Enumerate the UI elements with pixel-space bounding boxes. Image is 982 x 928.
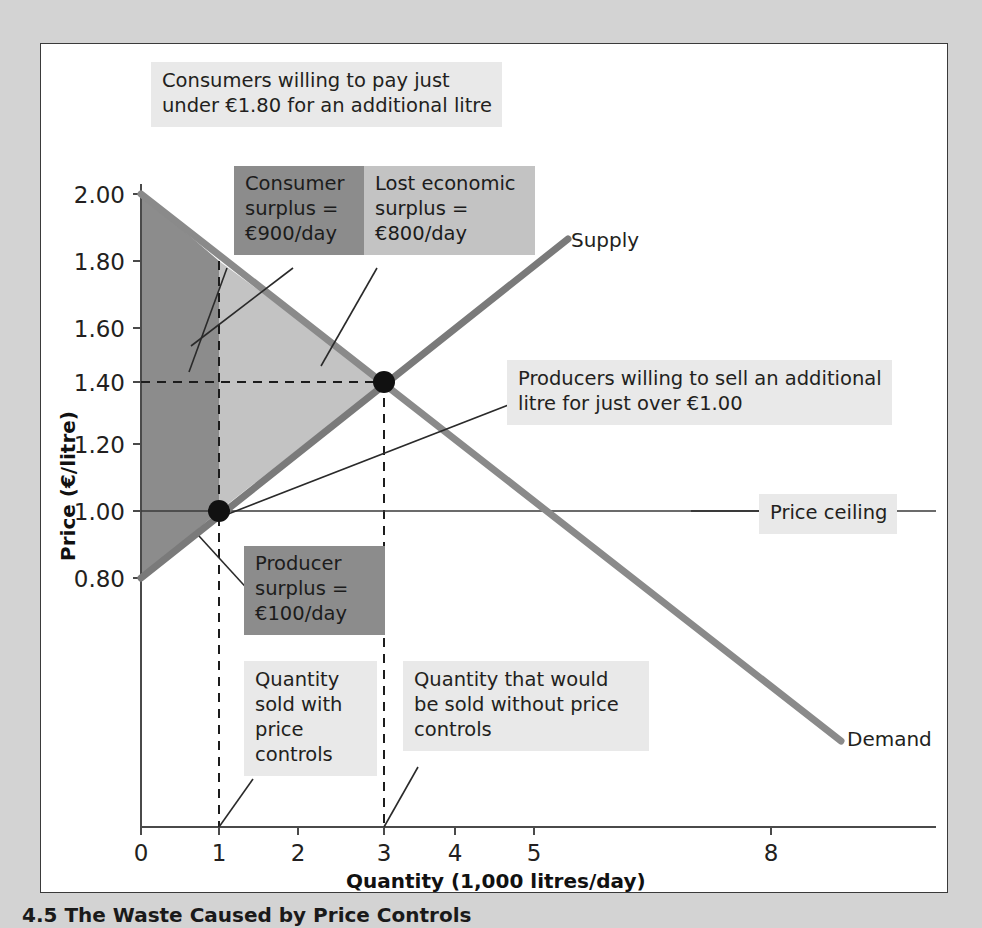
leader-quantity-without-controls (384, 767, 418, 827)
x-tick-label-4: 4 (435, 840, 475, 866)
y-tick-label-1.60: 1.60 (59, 316, 125, 342)
leader-lost-surplus (321, 268, 377, 366)
marker-equilibrium (373, 371, 395, 393)
x-tick-label-1: 1 (199, 840, 239, 866)
supply-curve-label: Supply (571, 228, 639, 252)
x-axis-title: Quantity (1,000 litres/day) (346, 869, 646, 893)
y-tick-label-1.40: 1.40 (59, 370, 125, 396)
y-tick-label-2.00: 2.00 (59, 182, 125, 208)
x-tick-label-0: 0 (121, 840, 161, 866)
demand-curve-label: Demand (847, 727, 932, 751)
annotation-lost-economic-surplus: Lost economic surplus = €800/day (364, 166, 535, 255)
figure-panel: 2.00 1.80 1.60 1.40 1.20 1.00 0.80 0 1 2… (40, 43, 948, 893)
annotation-price-ceiling: Price ceiling (759, 494, 897, 534)
annotation-quantity-with-controls: Quantity sold with price controls (244, 661, 377, 776)
marker-price-ceiling-quantity (208, 500, 230, 522)
x-axis-ticks (141, 827, 771, 835)
leader-quantity-with-controls (219, 779, 253, 827)
x-tick-label-5: 5 (514, 840, 554, 866)
annotation-consumer-surplus: Consumer surplus = €900/day (234, 166, 367, 255)
annotation-quantity-without-controls: Quantity that would be sold without pric… (403, 661, 649, 751)
chart-plot-area: 2.00 1.80 1.60 1.40 1.20 1.00 0.80 0 1 2… (41, 44, 949, 894)
y-tick-label-1.80: 1.80 (59, 249, 125, 275)
annotation-producers-willingness-to-sell: Producers willing to sell an additional … (507, 360, 892, 425)
y-axis-title: Price (€/litre) (56, 411, 80, 561)
x-tick-label-2: 2 (278, 840, 318, 866)
figure-caption: 4.5 The Waste Caused by Price Controls (22, 903, 471, 927)
annotation-consumers-willingness-to-pay: Consumers willing to pay just under €1.8… (151, 62, 502, 127)
annotation-producer-surplus: Producer surplus = €100/day (244, 546, 385, 635)
y-axis-ticks (133, 194, 141, 578)
y-tick-label-0.80: 0.80 (59, 566, 125, 592)
x-tick-label-8: 8 (751, 840, 791, 866)
x-tick-label-3: 3 (364, 840, 404, 866)
